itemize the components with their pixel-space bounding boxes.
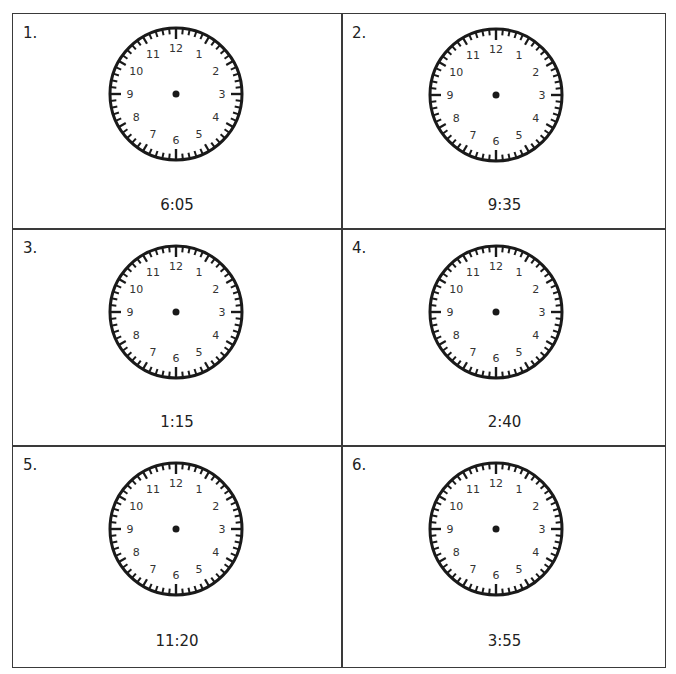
hour-numeral: 12 <box>489 43 503 56</box>
minute-tick <box>430 318 436 319</box>
clock-face[interactable]: 121234567891011 <box>107 243 245 385</box>
minute-tick <box>111 106 117 107</box>
hour-numeral: 1 <box>196 48 203 61</box>
minute-tick <box>431 515 437 516</box>
hour-numeral: 11 <box>466 49 480 62</box>
minute-tick <box>430 88 436 89</box>
hour-numeral: 5 <box>196 346 203 359</box>
hour-numeral: 10 <box>129 65 143 78</box>
hour-numeral: 12 <box>169 477 183 490</box>
minute-tick <box>489 155 490 161</box>
minute-tick <box>162 247 163 253</box>
problem-cell-1: 1. 121234567891011 6:05 <box>13 14 341 228</box>
hour-numeral: 4 <box>532 546 539 559</box>
clock-face[interactable]: 121234567891011 <box>107 25 245 167</box>
target-time-label: 3:55 <box>342 632 667 650</box>
minute-tick <box>110 535 116 536</box>
hour-numeral: 7 <box>470 563 477 576</box>
hour-numeral: 8 <box>453 112 460 125</box>
minute-tick <box>111 515 117 516</box>
hour-numeral: 3 <box>219 88 226 101</box>
hour-numeral: 12 <box>489 477 503 490</box>
center-pivot-dot <box>493 526 500 533</box>
hour-numeral: 9 <box>127 523 134 536</box>
hour-numeral: 10 <box>129 283 143 296</box>
hour-numeral: 6 <box>173 134 180 147</box>
minute-tick <box>182 154 183 160</box>
problem-number: 1. <box>23 24 37 42</box>
minute-tick <box>556 88 562 89</box>
hour-numeral: 9 <box>127 88 134 101</box>
minute-tick <box>502 155 503 161</box>
center-pivot-dot <box>173 309 180 316</box>
minute-tick <box>556 101 562 102</box>
hour-numeral: 8 <box>453 329 460 342</box>
minute-tick <box>169 246 170 252</box>
minute-tick <box>482 371 483 377</box>
hour-numeral: 3 <box>219 306 226 319</box>
center-pivot-dot <box>493 92 500 99</box>
clock-face[interactable]: 121234567891011 <box>427 243 565 385</box>
hour-numeral: 9 <box>127 306 134 319</box>
hour-numeral: 10 <box>129 500 143 513</box>
hour-numeral: 1 <box>516 483 523 496</box>
minute-tick <box>110 87 116 88</box>
target-time-label: 9:35 <box>342 196 667 214</box>
minute-tick <box>111 324 117 325</box>
minute-tick <box>188 464 189 470</box>
minute-tick <box>188 371 189 377</box>
minute-tick <box>508 588 509 594</box>
minute-tick <box>236 87 242 88</box>
problem-cell-4: 4. 121234567891011 2:40 <box>342 229 667 445</box>
hour-numeral: 6 <box>493 352 500 365</box>
minute-tick <box>430 101 436 102</box>
center-pivot-dot <box>493 309 500 316</box>
minute-tick <box>556 522 562 523</box>
minute-tick <box>556 318 562 319</box>
target-time-label: 2:40 <box>342 413 667 431</box>
minute-tick <box>556 535 562 536</box>
minute-tick <box>182 372 183 378</box>
minute-tick <box>110 318 116 319</box>
clock-face[interactable]: 121234567891011 <box>427 26 565 168</box>
minute-tick <box>236 535 242 536</box>
minute-tick <box>555 298 561 299</box>
hour-numeral: 6 <box>493 569 500 582</box>
minute-tick <box>111 541 117 542</box>
minute-tick <box>508 154 509 160</box>
minute-tick <box>482 464 483 470</box>
hour-numeral: 2 <box>212 65 219 78</box>
minute-tick <box>182 28 183 34</box>
hour-numeral: 4 <box>212 546 219 559</box>
hour-numeral: 8 <box>453 546 460 559</box>
hour-numeral: 5 <box>516 346 523 359</box>
hour-numeral: 9 <box>447 523 454 536</box>
hour-numeral: 10 <box>449 500 463 513</box>
hour-numeral: 7 <box>470 129 477 142</box>
minute-tick <box>162 29 163 35</box>
minute-tick <box>110 305 116 306</box>
clock-face[interactable]: 121234567891011 <box>427 460 565 602</box>
minute-tick <box>235 106 241 107</box>
hour-numeral: 7 <box>150 563 157 576</box>
minute-tick <box>169 28 170 34</box>
hour-numeral: 2 <box>532 66 539 79</box>
minute-tick <box>489 463 490 469</box>
hour-numeral: 4 <box>212 111 219 124</box>
hour-numeral: 4 <box>532 112 539 125</box>
minute-tick <box>482 154 483 160</box>
hour-numeral: 4 <box>212 329 219 342</box>
problem-number: 2. <box>352 24 366 42</box>
target-time-label: 6:05 <box>13 196 341 214</box>
problem-number: 6. <box>352 456 366 474</box>
minute-tick <box>502 29 503 35</box>
minute-tick <box>502 372 503 378</box>
minute-tick <box>162 153 163 159</box>
minute-tick <box>236 305 242 306</box>
minute-tick <box>236 100 242 101</box>
hour-numeral: 1 <box>196 483 203 496</box>
hour-numeral: 1 <box>516 266 523 279</box>
hour-numeral: 5 <box>516 129 523 142</box>
clock-face[interactable]: 121234567891011 <box>107 460 245 602</box>
hour-numeral: 11 <box>146 266 160 279</box>
